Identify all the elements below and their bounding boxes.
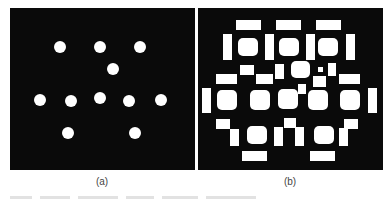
blob	[278, 89, 298, 109]
dot	[54, 41, 66, 53]
dot	[155, 94, 167, 106]
figure-caption	[10, 196, 310, 200]
fragment	[318, 67, 323, 72]
fragment	[306, 34, 315, 60]
fragment	[295, 127, 304, 146]
panel-b-label: (b)	[270, 176, 310, 187]
fragment	[328, 63, 336, 76]
blob	[247, 126, 267, 144]
dot	[129, 127, 141, 139]
panel-a-image	[10, 8, 195, 170]
fragment	[313, 76, 326, 87]
fragment	[265, 34, 274, 60]
fragment	[236, 20, 261, 30]
dot	[65, 95, 77, 107]
fragment	[230, 129, 239, 146]
blob	[250, 90, 270, 110]
dot	[134, 41, 146, 53]
blob	[238, 38, 258, 56]
blob	[217, 90, 237, 110]
blob	[308, 90, 328, 110]
fragment	[275, 64, 284, 79]
fragment	[216, 119, 230, 129]
dot	[62, 127, 74, 139]
fragment	[240, 65, 254, 75]
fragment	[216, 74, 237, 84]
fragment	[339, 128, 348, 146]
fragment	[242, 151, 267, 161]
panel-a-label: (a)	[82, 176, 122, 187]
dot	[94, 41, 106, 53]
fragment	[339, 74, 360, 84]
blob	[314, 126, 334, 144]
dot	[107, 63, 119, 75]
fragment	[223, 34, 232, 60]
blob	[279, 38, 299, 56]
fragment	[368, 88, 377, 113]
fragment	[202, 88, 211, 113]
fragment	[256, 74, 273, 84]
blob	[318, 38, 338, 56]
fragment	[346, 34, 355, 60]
fragment	[310, 151, 335, 161]
blob	[340, 90, 360, 110]
fragment	[276, 20, 301, 30]
fragment	[316, 20, 341, 30]
fragment	[298, 84, 306, 94]
panel-b-image	[198, 8, 383, 170]
dot	[34, 94, 46, 106]
dot	[94, 92, 106, 104]
dot	[123, 95, 135, 107]
blob	[291, 61, 310, 78]
fragment	[274, 127, 283, 146]
